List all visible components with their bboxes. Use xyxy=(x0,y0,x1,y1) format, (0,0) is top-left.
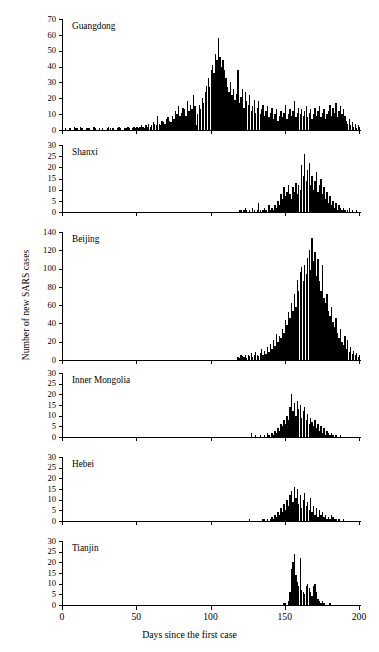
bar xyxy=(242,89,243,130)
x-tick xyxy=(136,521,137,525)
bar xyxy=(179,116,180,130)
bar xyxy=(280,424,281,437)
bar xyxy=(323,428,324,437)
bar xyxy=(120,128,121,130)
bar xyxy=(187,101,188,130)
bar xyxy=(340,208,341,212)
bar xyxy=(62,128,63,130)
y-tick xyxy=(59,82,62,83)
y-tick xyxy=(59,489,62,490)
bar xyxy=(319,431,320,437)
y-tick xyxy=(59,384,62,385)
bar xyxy=(310,185,311,212)
bar xyxy=(139,127,140,130)
bar xyxy=(301,508,302,521)
bar xyxy=(306,420,307,437)
bar xyxy=(260,114,261,130)
bar xyxy=(291,116,292,130)
bar xyxy=(285,105,286,130)
y-tick-label: 5 xyxy=(0,590,56,599)
x-tick xyxy=(211,130,212,134)
bar xyxy=(307,414,308,437)
bar xyxy=(337,210,338,212)
bar xyxy=(265,354,266,360)
y-axis-line xyxy=(62,541,63,606)
y-tick xyxy=(59,360,62,361)
bar xyxy=(316,172,317,212)
bar xyxy=(228,92,229,130)
y-tick-label: 10 xyxy=(0,411,56,420)
bar xyxy=(138,128,139,130)
bar xyxy=(282,426,283,437)
bar xyxy=(326,294,327,360)
bar xyxy=(320,426,321,437)
bar xyxy=(349,208,350,212)
bar xyxy=(316,116,317,130)
bar xyxy=(322,433,323,437)
y-tick xyxy=(59,373,62,374)
bar xyxy=(338,338,339,360)
x-tick xyxy=(285,605,286,610)
y-tick xyxy=(59,437,62,438)
bar xyxy=(355,124,356,130)
x-tick-label: 0 xyxy=(42,612,82,622)
bar xyxy=(246,358,247,360)
bar xyxy=(329,196,330,212)
bar xyxy=(297,401,298,437)
bar xyxy=(291,303,292,360)
bar xyxy=(338,111,339,130)
bar xyxy=(323,187,324,212)
x-tick xyxy=(359,212,360,216)
bar xyxy=(62,359,63,360)
bar xyxy=(285,603,286,605)
bar xyxy=(260,435,261,437)
bar xyxy=(242,356,243,360)
bar xyxy=(329,603,330,605)
bar xyxy=(311,119,312,130)
y-tick xyxy=(59,250,62,251)
bar xyxy=(260,353,261,360)
bar xyxy=(349,119,350,130)
bar xyxy=(352,122,353,130)
bar xyxy=(216,60,217,130)
bar xyxy=(181,113,182,130)
bar xyxy=(291,491,292,521)
bar xyxy=(267,347,268,360)
y-tick xyxy=(59,190,62,191)
panel-inner-mongolia: 051015202530Inner Mongolia xyxy=(0,0,379,652)
y-tick xyxy=(59,19,62,20)
bar xyxy=(319,281,320,360)
bar xyxy=(309,588,310,605)
bar xyxy=(332,435,333,437)
bar xyxy=(145,125,146,130)
bar xyxy=(208,78,209,130)
bar xyxy=(340,435,341,437)
bar xyxy=(298,504,299,521)
bar xyxy=(307,502,308,521)
bar xyxy=(285,424,286,437)
bar xyxy=(249,356,250,360)
bar xyxy=(274,431,275,437)
bar xyxy=(150,127,151,130)
bar-series xyxy=(62,541,361,605)
bar xyxy=(185,116,186,130)
bar xyxy=(317,111,318,130)
bar xyxy=(343,208,344,212)
y-tick xyxy=(59,605,62,606)
y-tick-label: 20 xyxy=(0,94,56,103)
y-tick-label: 60 xyxy=(0,31,56,40)
bar xyxy=(347,340,348,360)
bar xyxy=(326,114,327,130)
bar xyxy=(279,515,280,521)
y-tick-label: 10 xyxy=(0,110,56,119)
bar xyxy=(301,590,302,605)
bar xyxy=(334,113,335,130)
bar xyxy=(248,355,249,360)
bar-series xyxy=(62,19,361,130)
bar xyxy=(246,101,247,130)
bar xyxy=(343,345,344,360)
bar xyxy=(274,205,275,212)
bar xyxy=(62,128,63,130)
bar xyxy=(329,105,330,130)
bar-series xyxy=(62,232,361,360)
